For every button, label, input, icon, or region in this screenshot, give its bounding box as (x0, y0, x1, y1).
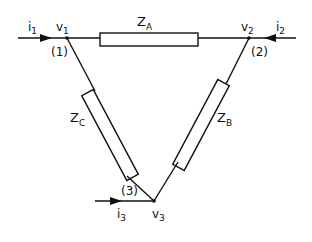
wire-v1-to-zc (67, 38, 95, 91)
label-v2: v2 (241, 20, 254, 36)
arrow-i2-icon (264, 34, 276, 42)
label-zc: ZC (70, 110, 85, 128)
delta-network-diagram: ZA ZB ZC v1 v2 v3 (1) (2) (3) i1 i2 i3 (0, 0, 312, 242)
impedance-zb (173, 80, 230, 171)
label-node-3: (3) (121, 184, 138, 198)
label-v1: v1 (56, 20, 69, 36)
wire-v2-to-zb (226, 38, 249, 84)
node-3-dot (152, 199, 156, 203)
label-za: ZA (137, 14, 153, 32)
node-2-dot (247, 36, 251, 40)
wire-zb-to-v3 (154, 162, 178, 201)
label-i1: i1 (28, 20, 37, 36)
node-1-dot (65, 36, 69, 40)
arrow-i3-icon (110, 197, 122, 205)
label-i2: i2 (276, 20, 285, 36)
impedance-zc (82, 90, 139, 181)
label-zb: ZB (217, 110, 232, 128)
label-node-2: (2) (251, 45, 268, 59)
label-v3: v3 (152, 207, 165, 223)
label-node-1: (1) (51, 45, 68, 59)
impedance-za (100, 33, 198, 46)
arrow-i1-icon (40, 34, 52, 42)
label-i3: i3 (117, 207, 126, 223)
